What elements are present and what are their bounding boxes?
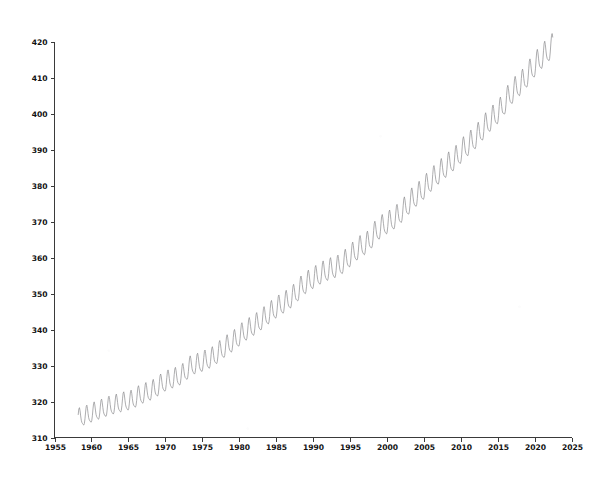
x-tick-label: 1975 bbox=[192, 443, 213, 452]
y-tick-label: 410 bbox=[32, 74, 48, 83]
x-tick-label: 1965 bbox=[118, 443, 139, 452]
y-tick-label: 350 bbox=[32, 290, 48, 299]
x-tick-label: 2010 bbox=[451, 443, 472, 452]
chart-figure: 310320330340350360370380390400410420 195… bbox=[0, 0, 604, 487]
y-tick-label: 370 bbox=[32, 218, 48, 227]
x-tick-label: 1995 bbox=[340, 443, 361, 452]
y-tick-label: 420 bbox=[32, 38, 48, 47]
x-tick-label: 1955 bbox=[45, 443, 66, 452]
y-tick-label: 330 bbox=[32, 362, 48, 371]
x-tick-label: 1960 bbox=[81, 443, 102, 452]
x-tick-label: 1980 bbox=[229, 443, 250, 452]
x-tick-label: 1970 bbox=[155, 443, 176, 452]
x-tick-label: 1990 bbox=[303, 443, 324, 452]
y-tick-label: 390 bbox=[32, 146, 48, 155]
x-tick-label: 2005 bbox=[414, 443, 435, 452]
y-tick-label: 310 bbox=[32, 434, 48, 443]
x-tick-label: 2000 bbox=[377, 443, 398, 452]
x-tick-label: 1985 bbox=[266, 443, 287, 452]
chart-background bbox=[0, 0, 604, 487]
y-tick-label: 320 bbox=[32, 398, 48, 407]
co2-keeling-curve-chart: 310320330340350360370380390400410420 195… bbox=[0, 0, 604, 487]
y-tick-label: 380 bbox=[32, 182, 48, 191]
y-tick-label: 340 bbox=[32, 326, 48, 335]
y-tick-label: 360 bbox=[32, 254, 48, 263]
x-tick-label: 2025 bbox=[562, 443, 583, 452]
x-tick-label: 2020 bbox=[525, 443, 546, 452]
y-tick-label: 400 bbox=[32, 110, 48, 119]
x-tick-label: 2015 bbox=[488, 443, 509, 452]
